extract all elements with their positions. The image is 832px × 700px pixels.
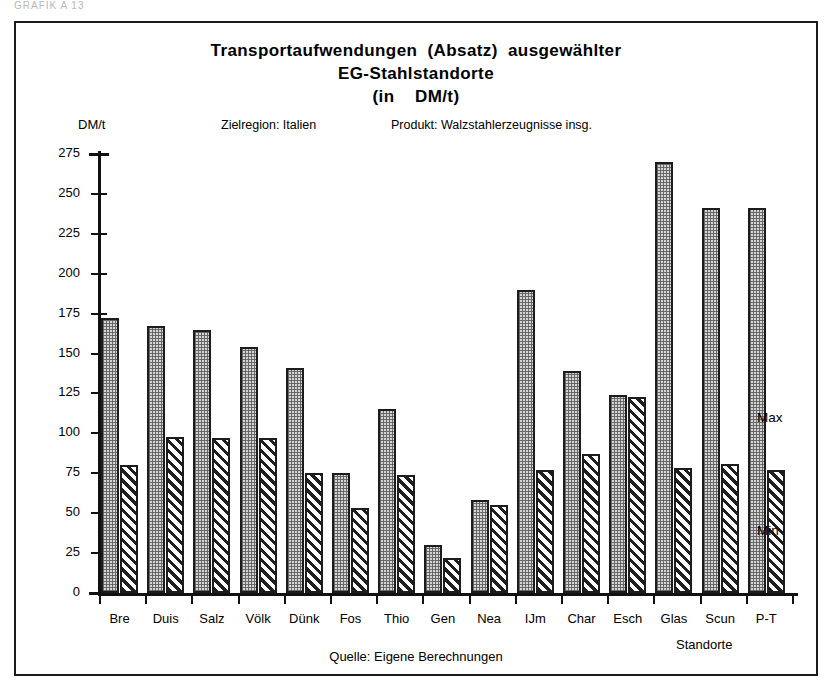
y-tick-label: 250 <box>34 185 80 200</box>
chart-figure-frame: Transportaufwendungen (Absatz) ausgewähl… <box>14 21 818 676</box>
x-tick-mark <box>376 593 378 604</box>
bar-min-Nea <box>490 505 508 593</box>
bar-max-Esch <box>609 395 627 593</box>
bar-min-Char <box>582 454 600 593</box>
x-axis-line <box>98 593 798 596</box>
y-tick-label: 275 <box>34 145 80 160</box>
bar-max-Scun <box>702 208 720 593</box>
x-tick-mark <box>607 593 609 604</box>
y-tick-label: 225 <box>34 225 80 240</box>
x-tick-mark <box>653 593 655 604</box>
bar-min-Glas <box>674 468 692 593</box>
bar-min-IJm <box>536 470 554 593</box>
bar-min-Gen <box>443 558 461 593</box>
scan-header-text: GRAFIK A 13 <box>14 0 84 11</box>
y-tick-label: 50 <box>34 504 80 519</box>
x-tick-mark <box>99 593 101 604</box>
bar-max-Salz <box>193 330 211 593</box>
bar-max-Gen <box>424 545 442 593</box>
bar-min-Salz <box>212 438 230 593</box>
y-tick-label: 175 <box>34 305 80 320</box>
source-note: Quelle: Eigene Berechnungen <box>16 649 816 664</box>
bar-max-Thio <box>378 409 396 593</box>
x-tick-mark <box>238 593 240 604</box>
x-tick-mark <box>191 593 193 604</box>
bar-min-Esch <box>628 397 646 593</box>
legend-item-min: Min <box>757 523 779 538</box>
bar-min-Dünk <box>305 473 323 593</box>
y-tick-label: 75 <box>34 464 80 479</box>
bar-max-Glas <box>655 162 673 593</box>
y-tick-mark <box>89 153 109 156</box>
x-tick-mark <box>284 593 286 604</box>
bar-min-Völk <box>259 438 277 593</box>
x-tick-mark <box>700 593 702 604</box>
y-tick-label: 200 <box>34 265 80 280</box>
y-tick-mark <box>91 273 107 275</box>
x-tick-mark <box>330 593 332 604</box>
y-tick-label: 125 <box>34 384 80 399</box>
legend-item-max: Max <box>757 410 783 425</box>
y-tick-mark <box>91 313 107 315</box>
y-tick-label: 100 <box>34 424 80 439</box>
bar-min-Fos <box>351 508 369 593</box>
bar-max-Bre <box>101 318 119 593</box>
y-tick-mark <box>91 233 107 235</box>
bar-max-IJm <box>517 290 535 593</box>
y-tick-label: 150 <box>34 345 80 360</box>
x-tick-mark <box>145 593 147 604</box>
bar-max-Duis <box>147 326 165 593</box>
x-tick-mark <box>469 593 471 604</box>
bar-max-Nea <box>471 500 489 593</box>
x-tick-mark <box>422 593 424 604</box>
x-tick-mark <box>515 593 517 604</box>
x-tick-label-P-T: P-T <box>736 611 796 626</box>
y-tick-mark <box>91 193 107 195</box>
x-tick-mark <box>561 593 563 604</box>
bar-max-Char <box>563 371 581 593</box>
bar-min-Duis <box>166 437 184 593</box>
x-tick-mark <box>792 593 794 604</box>
bar-max-Dünk <box>286 368 304 593</box>
x-tick-mark <box>746 593 748 604</box>
bar-min-Scun <box>721 464 739 593</box>
bar-min-Bre <box>120 465 138 593</box>
bar-max-Fos <box>332 473 350 593</box>
plot-area: 0255075100125150175200225250275 BreDuisS… <box>16 23 820 674</box>
bar-min-Thio <box>397 475 415 593</box>
y-tick-label: 0 <box>34 584 80 599</box>
y-tick-label: 25 <box>34 544 80 559</box>
bar-max-Völk <box>240 347 258 593</box>
